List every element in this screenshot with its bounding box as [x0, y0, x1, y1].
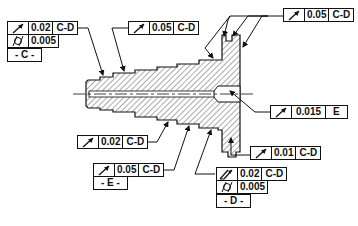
datum-reference: C-D	[328, 8, 354, 22]
datum-label: - D -	[216, 194, 251, 208]
circular-runout-icon	[250, 146, 272, 160]
tolerance-value: 0.02	[98, 135, 123, 149]
circular-runout-icon	[93, 163, 115, 177]
datum-reference: C-D	[173, 21, 199, 35]
fcf-datum-c: 0.02 C-D 0.005 - C -	[7, 21, 78, 63]
circular-runout-icon	[270, 105, 292, 119]
fcf-runout-bore: 0.015 E	[270, 105, 348, 119]
tolerance-value: 0.05	[149, 21, 174, 35]
datum-reference: C-D	[261, 167, 287, 181]
circular-runout-icon	[77, 135, 99, 149]
datum-label: - E -	[93, 176, 128, 190]
fcf-runout-top-right: 0.05 C-D	[283, 8, 354, 22]
fcf-runout-face: 0.01 C-D	[250, 146, 321, 160]
datum-reference: C-D	[295, 146, 321, 160]
tolerance-value: 0.005	[237, 180, 268, 194]
runout-drawing: 0.02 C-D 0.005 - C - 0.05 C-D 0.05 C-D 0…	[0, 0, 358, 226]
datum-label: - C -	[7, 48, 42, 62]
fcf-datum-e: 0.05 C-D - E -	[93, 163, 164, 191]
circular-runout-icon	[128, 21, 150, 35]
cylindricity-icon	[216, 180, 238, 194]
datum-reference: C-D	[52, 21, 78, 35]
total-runout-icon	[216, 167, 238, 181]
tolerance-value: 0.05	[114, 163, 139, 177]
tolerance-value: 0.015	[291, 105, 326, 119]
datum-reference: C-D	[122, 135, 148, 149]
fcf-runout-top-middle: 0.05 C-D	[128, 21, 199, 35]
tolerance-value: 0.02	[237, 167, 262, 181]
datum-reference: C-D	[138, 163, 164, 177]
fcf-runout-step: 0.02 C-D	[77, 135, 148, 149]
tolerance-value: 0.05	[304, 8, 329, 22]
tolerance-value: 0.005	[28, 34, 59, 48]
cylindricity-icon	[7, 34, 29, 48]
tolerance-value: 0.02	[28, 21, 53, 35]
circular-runout-icon	[283, 8, 305, 22]
circular-runout-icon	[7, 21, 29, 35]
fcf-datum-d: 0.02 C-D 0.005 - D -	[216, 167, 287, 209]
tolerance-value: 0.01	[271, 146, 296, 160]
datum-reference: E	[325, 105, 348, 119]
